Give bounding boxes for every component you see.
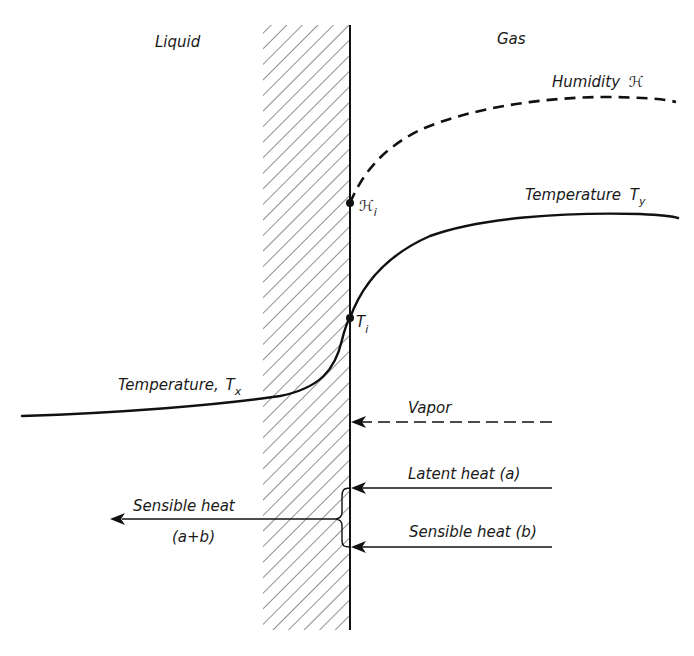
liquid-temperature-label: Temperature, Tx [118, 376, 242, 398]
temperature-interface-point [346, 314, 354, 322]
liquid-film-hatched-region [263, 25, 350, 630]
interface-diagram: Liquid Gas Humidity ℋ Temperature Ty Tem… [0, 0, 694, 656]
vapor-label: Vapor [408, 399, 452, 417]
sensible-heat-total-sum-label: (a+b) [172, 528, 215, 546]
sensible-heat-total-label: Sensible heat [133, 497, 236, 515]
humidity-curve [350, 97, 676, 203]
humidity-interface-point [346, 199, 354, 207]
gas-region-label: Gas [497, 30, 526, 48]
liquid-region-label: Liquid [155, 33, 201, 51]
latent-heat-label: Latent heat (a) [408, 465, 520, 483]
gas-temperature-curve [350, 214, 678, 318]
gas-temperature-label: Temperature Ty [525, 186, 646, 208]
humidity-interface-label: ℋi [359, 197, 377, 219]
temperature-interface-label: Ti [356, 313, 368, 336]
humidity-label: Humidity ℋ [552, 73, 644, 91]
sensible-heat-b-label: Sensible heat (b) [409, 523, 537, 541]
